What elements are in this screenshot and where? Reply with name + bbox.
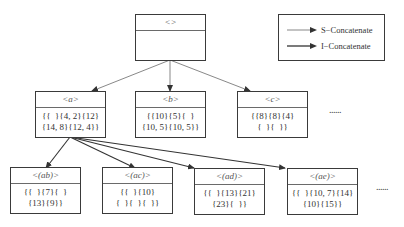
- node-root: <>: [135, 14, 206, 61]
- node-a-label: <a>: [36, 92, 105, 108]
- node-ae-line-1: {{ }{10, 7}{14}: [288, 188, 357, 199]
- node-ad: <(ad)> {{ }{13}{21}{23}{ }}: [194, 168, 265, 215]
- edge-root-c: [170, 60, 250, 91]
- node-ac-label: <(ac)>: [103, 168, 172, 184]
- legend-item-i-concatenate: I−Concatenate: [287, 40, 371, 52]
- node-ab: <(ab)> {{ }{7}{ }{13}{9}}: [10, 167, 81, 214]
- node-b-line-2: {10, 5}{10, 5}}: [136, 122, 205, 133]
- thin-arrow-icon: [287, 26, 317, 34]
- edge-root-a: [92, 60, 170, 91]
- node-a-line-1: {{ }{4, 2}{12}: [36, 111, 105, 122]
- ellipsis-level3: ......: [376, 181, 388, 192]
- thick-arrow-icon: [287, 42, 317, 50]
- node-ad-line-1: {{ }{13}{21}: [195, 188, 264, 199]
- node-ac: <(ac)> {{ }{10}{ }{ }{ }}: [102, 167, 173, 214]
- node-ac-line-2: { }{ }{ }}: [103, 198, 172, 209]
- node-ac-line-1: {{ }{10}: [103, 187, 172, 198]
- edge-a-ab: [46, 137, 70, 168]
- node-ad-label: <(ad)>: [195, 169, 264, 185]
- node-root-label: <>: [136, 15, 205, 31]
- node-a-line-2: {14, 8}{12, 4}}: [36, 122, 105, 133]
- node-ae-line-2: {10}{15}}: [288, 199, 357, 210]
- node-c-label: <c>: [238, 92, 307, 108]
- node-ab-line-1: {{ }{7}{ }: [11, 187, 80, 198]
- node-c: <c> {{8}{8}{4}{ }{ }}: [237, 91, 308, 138]
- ellipsis-level2: ......: [329, 104, 341, 115]
- node-ae: <(ae)> {{ }{10, 7}{14}{10}{15}}: [287, 168, 358, 215]
- legend-item-s-concatenate: S−Concatenate: [287, 24, 373, 36]
- node-a: <a> {{ }{4, 2}{12}{14, 8}{12, 4}}: [35, 91, 106, 138]
- node-c-line-2: { }{ }}: [238, 122, 307, 133]
- node-c-line-1: {{8}{8}{4}: [238, 111, 307, 122]
- node-b-line-1: {{10}{5}{ }: [136, 111, 205, 122]
- legend-label-i: I−Concatenate: [321, 41, 371, 51]
- node-ab-line-2: {13}{9}}: [11, 198, 80, 209]
- node-ae-label: <(ae)>: [288, 169, 357, 185]
- node-b: <b> {{10}{5}{ }{10, 5}{10, 5}}: [135, 91, 206, 138]
- legend: S−Concatenate I−Concatenate: [278, 14, 385, 61]
- node-ad-line-2: {23}{ }}: [195, 199, 264, 210]
- node-ab-label: <(ab)>: [11, 168, 80, 184]
- node-b-label: <b>: [136, 92, 205, 108]
- legend-label-s: S−Concatenate: [321, 25, 373, 35]
